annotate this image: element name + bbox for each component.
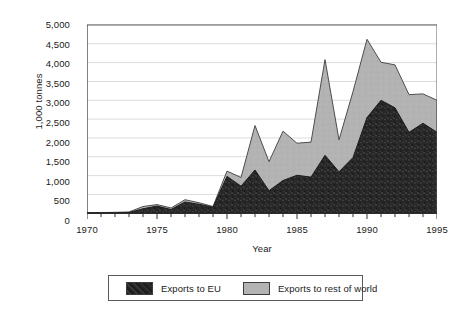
x-axis-ticks: [87, 213, 437, 219]
plot-svg: [87, 24, 437, 220]
x-tick-label: 1995: [426, 224, 448, 235]
legend-label-exports-to-eu: Exports to EU: [161, 283, 221, 294]
x-axis-title: Year: [87, 243, 437, 254]
y-tick-label: 4,500: [46, 38, 70, 49]
legend-item-exports-to-rest-of-world: Exports to rest of world: [243, 276, 378, 300]
chart-legend: Exports to EU Exports to rest of world: [108, 275, 363, 301]
y-tick-label: 3,500: [46, 77, 70, 88]
y-tick-label: 2,000: [46, 136, 70, 147]
y-tick-label: 4,000: [46, 58, 70, 69]
x-tick-label: 1970: [76, 224, 98, 235]
y-tick-label: 2,500: [46, 117, 70, 128]
legend-swatch-exports-to-rest-of-world: [243, 282, 270, 295]
legend-swatch-exports-to-eu: [126, 282, 153, 295]
exports-area-chart: 1,000 tonnes 05001,0001,5002,0002,5003,0…: [0, 0, 471, 314]
y-tick-label: 3,000: [46, 97, 70, 108]
x-tick-label: 1985: [286, 224, 308, 235]
x-axis-tick-labels: 197019751980198519901995: [0, 224, 471, 240]
y-tick-label: 1,000: [46, 175, 70, 186]
y-tick-label: 500: [54, 195, 70, 206]
x-tick-label: 1990: [356, 224, 378, 235]
y-tick-label: 1,500: [46, 156, 70, 167]
y-tick-label: 5,000: [46, 19, 70, 30]
x-tick-label: 1975: [146, 224, 168, 235]
plot-area: [87, 24, 437, 220]
x-tick-label: 1980: [216, 224, 238, 235]
legend-item-exports-to-eu: Exports to EU: [126, 276, 221, 300]
legend-label-exports-to-rest-of-world: Exports to rest of world: [278, 283, 378, 294]
y-axis-tick-labels: 05001,0001,5002,0002,5003,0003,5004,0004…: [18, 0, 70, 314]
